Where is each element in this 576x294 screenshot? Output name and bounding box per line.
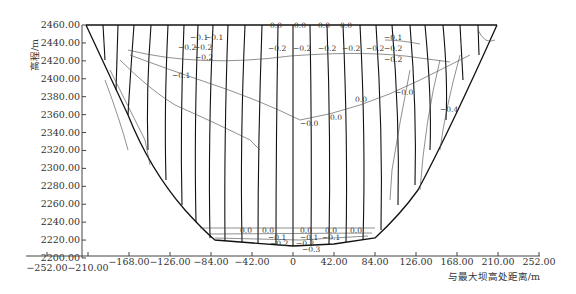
svg-text:−0.2: −0.2: [342, 44, 360, 53]
y-tick-label: 2340.00: [41, 127, 80, 138]
x-tick-label: 0: [290, 256, 296, 267]
y-tick-label: 2460.00: [41, 19, 80, 30]
svg-text:0.0: 0.0: [355, 95, 367, 104]
x-axis-label: 与最大坝高处距离/m: [448, 271, 540, 282]
svg-text:−0.2: −0.2: [293, 44, 311, 53]
svg-text:−0.2: −0.2: [270, 239, 288, 248]
svg-text:−0.1: −0.1: [384, 33, 402, 42]
y-tick-label: 2240.00: [41, 216, 80, 227]
y-tick-label: 2260.00: [41, 198, 80, 209]
svg-text:−0.2: −0.2: [194, 43, 212, 52]
contour-chart: 2200.002220.002240.002260.002280.002300.…: [0, 0, 576, 294]
svg-text:−0.1: −0.1: [322, 233, 340, 242]
svg-text:0.0: 0.0: [318, 21, 330, 30]
y-tick-label: 2380.00: [41, 91, 80, 102]
svg-text:−0.0: −0.0: [300, 119, 318, 128]
svg-text:0.0: 0.0: [240, 226, 252, 235]
svg-text:−0.2: −0.2: [195, 53, 213, 62]
svg-text:−0.4: −0.4: [440, 105, 458, 114]
y-tick-label: 2300.00: [41, 162, 80, 173]
stress-contours: [105, 30, 495, 240]
x-tick-label: −168.00: [108, 256, 149, 267]
x-axis: −252.00−210.00−168.00−126.00−84.00−42.00…: [26, 252, 556, 273]
x-tick-label: 210.00: [481, 256, 514, 267]
x-tick-label: −252.00: [26, 262, 67, 273]
svg-text:−0.2: −0.2: [384, 55, 402, 64]
x-tick-label: 252.00: [522, 256, 555, 267]
x-tick-label: −42.00: [234, 256, 269, 267]
x-tick-label: 42.00: [320, 256, 347, 267]
y-tick-label: 2440.00: [41, 37, 80, 48]
svg-text:−0.2: −0.2: [366, 44, 384, 53]
y-tick-label: 2360.00: [41, 109, 80, 120]
x-tick-label: 84.00: [361, 256, 388, 267]
svg-text:0.0: 0.0: [330, 113, 342, 122]
x-tick-label: 126.00: [399, 256, 432, 267]
x-tick-label: −84.00: [193, 256, 228, 267]
svg-text:−0.1: −0.1: [172, 71, 190, 80]
svg-text:−0.2: −0.2: [384, 44, 402, 53]
svg-text:−0.0: −0.0: [395, 88, 413, 97]
y-axis: 2200.002220.002240.002260.002280.002300.…: [41, 19, 86, 263]
svg-text:−0.2: −0.2: [268, 44, 286, 53]
svg-text:0.0: 0.0: [340, 21, 352, 30]
svg-text:0.0: 0.0: [350, 226, 362, 235]
y-tick-label: 2280.00: [41, 180, 80, 191]
svg-text:0.0: 0.0: [294, 21, 306, 30]
svg-text:−0.3: −0.3: [302, 245, 320, 254]
y-tick-label: 2420.00: [41, 55, 80, 66]
x-tick-label: 168.00: [440, 256, 473, 267]
svg-text:−0.1: −0.1: [205, 33, 223, 42]
x-tick-label: −126.00: [149, 256, 190, 267]
y-tick-label: 2220.00: [41, 234, 80, 245]
svg-text:−0.2: −0.2: [318, 44, 336, 53]
x-tick-label: −210.00: [67, 262, 108, 273]
svg-text:0.0: 0.0: [270, 21, 282, 30]
y-axis-label: 高程/m: [29, 39, 40, 71]
y-tick-label: 2400.00: [41, 73, 80, 84]
y-tick-label: 2320.00: [41, 144, 80, 155]
